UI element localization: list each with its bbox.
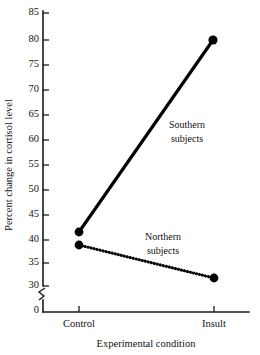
y-tick-label-65: 65 [29, 108, 40, 119]
southern-point-insult [208, 35, 217, 44]
northern-point-control [75, 241, 84, 250]
y-tick-label-70: 70 [29, 83, 40, 94]
annotation-northern-subjects: Northern subjects [145, 231, 181, 256]
northern-label-line2: subjects [147, 245, 179, 256]
y-tick-label-60: 60 [29, 133, 40, 144]
southern-label-line2: subjects [171, 133, 203, 144]
x-axis-title: Experimental condition [97, 338, 197, 349]
y-tick-marks [43, 13, 49, 286]
annotation-southern-subjects: Southern subjects [169, 119, 205, 144]
x-tick-label-insult: Insult [202, 318, 226, 329]
chart-figure: Percent change in cortisol level 85 [0, 0, 260, 355]
x-tick-label-control: Control [63, 318, 95, 329]
northern-label-line1: Northern [145, 231, 181, 242]
y-tick-label-45: 45 [29, 208, 40, 219]
axis-break-icon [39, 288, 45, 300]
y-tick-labels: 85 80 75 70 65 60 55 50 45 40 35 30 0 [29, 6, 40, 315]
y-tick-label-35: 35 [29, 256, 40, 267]
line-chart-svg: Percent change in cortisol level 85 [0, 0, 260, 355]
northern-point-insult [210, 274, 219, 283]
y-tick-label-0: 0 [34, 304, 39, 315]
y-tick-label-75: 75 [29, 58, 40, 69]
y-tick-label-55: 55 [29, 158, 40, 169]
southern-point-control [75, 228, 84, 237]
y-tick-label-80: 80 [29, 33, 40, 44]
y-axis-title: Percent change in cortisol level [3, 99, 14, 231]
x-tick-marks [79, 306, 214, 312]
southern-label-line1: Southern [169, 119, 205, 130]
y-tick-label-50: 50 [29, 183, 40, 194]
y-tick-label-40: 40 [29, 233, 40, 244]
y-tick-label-85: 85 [29, 6, 40, 17]
y-tick-label-30: 30 [29, 279, 40, 290]
